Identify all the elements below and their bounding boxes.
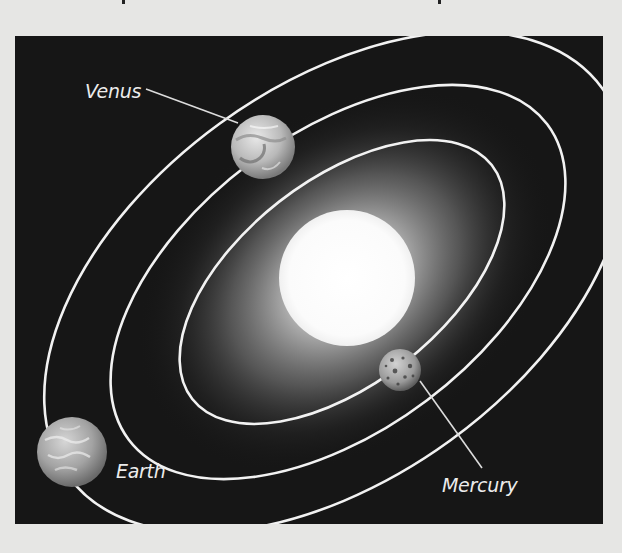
planet-earth xyxy=(37,417,107,487)
cropped-text-fragment xyxy=(122,0,125,4)
earth-label: Earth xyxy=(116,462,165,481)
solar-system-diagram: Venus Earth Mercury xyxy=(15,36,603,524)
mercury-label: Mercury xyxy=(442,476,517,495)
planet-mercury xyxy=(379,349,421,391)
planet-venus xyxy=(231,115,295,179)
venus-leader-line xyxy=(146,89,238,123)
diagram-canvas xyxy=(15,36,603,524)
venus-label: Venus xyxy=(85,82,141,101)
cropped-text-fragment xyxy=(438,0,441,4)
sun xyxy=(279,210,415,346)
